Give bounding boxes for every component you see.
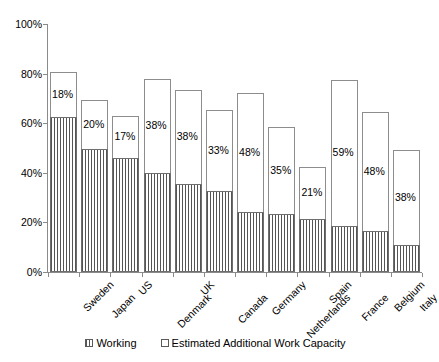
bar-group[interactable]: 35% (268, 24, 295, 272)
bar-segment-working[interactable] (268, 214, 295, 272)
x-axis-tick-mark (391, 273, 392, 277)
bar-value-label: 38% (177, 131, 198, 142)
legend-label: Estimated Additional Work Capacity (172, 337, 346, 349)
legend-swatch-working-icon (85, 339, 93, 347)
x-axis-tick-mark (142, 273, 143, 277)
legend-entry[interactable]: Working (85, 337, 136, 349)
bar-value-label: 20% (83, 119, 104, 130)
bar-group[interactable]: 38% (393, 24, 420, 272)
x-axis-category-label: Germany (269, 279, 307, 317)
legend-entry[interactable]: Estimated Additional Work Capacity (161, 337, 346, 349)
bar-value-label: 38% (395, 192, 416, 203)
y-axis-tick-label: 40% (4, 168, 42, 178)
bar-value-label: 18% (52, 89, 73, 100)
x-axis-tick-mark (204, 273, 205, 277)
x-axis-tick-mark (266, 273, 267, 277)
bar-group[interactable]: 17% (112, 24, 139, 272)
bar-value-label: 21% (301, 187, 322, 198)
bar-value-label: 59% (333, 147, 354, 158)
bar-segment-working[interactable] (362, 231, 389, 272)
y-axis-tick-mark (43, 123, 48, 124)
x-axis-category-label: Canada (236, 292, 270, 326)
bar-value-label: 33% (208, 145, 229, 156)
bar-segment-working[interactable] (81, 149, 108, 272)
y-axis-tick-mark (43, 222, 48, 223)
x-axis-tick-mark (422, 273, 423, 277)
bar-value-label: 38% (146, 120, 167, 131)
y-axis-tick-label: 100% (4, 19, 42, 29)
y-axis-tick-label: 80% (4, 69, 42, 79)
legend-swatch-capacity-icon (161, 339, 169, 347)
x-axis-tick-mark (297, 273, 298, 277)
bar-segment-working[interactable] (206, 191, 233, 272)
bar-segment-working[interactable] (175, 184, 202, 272)
bar-value-label: 48% (364, 166, 385, 177)
x-axis-tick-mark (79, 273, 80, 277)
bar-group[interactable]: 33% (206, 24, 233, 272)
x-axis-category-label: France (360, 292, 391, 323)
bar-segment-working[interactable] (237, 212, 264, 272)
y-axis-tick-mark (43, 74, 48, 75)
bar-value-label: 48% (239, 147, 260, 158)
bar-segment-working[interactable] (112, 158, 139, 272)
bar-value-label: 35% (270, 165, 291, 176)
x-axis-tick-mark (329, 273, 330, 277)
x-axis-tick-mark (48, 273, 49, 277)
bar-segment-working[interactable] (393, 245, 420, 272)
y-axis-tick-label: 60% (4, 118, 42, 128)
x-axis-tick-mark (110, 273, 111, 277)
y-axis: 100%80%60%40%20%0% (0, 0, 42, 362)
bar-group[interactable]: 18% (50, 24, 77, 272)
bar-group[interactable]: 59% (331, 24, 358, 272)
x-axis-category-label: Japan (109, 292, 137, 320)
x-axis-category-label: US (136, 279, 154, 297)
y-axis-tick-mark (43, 24, 48, 25)
bar-segment-working[interactable] (299, 219, 326, 272)
chart-legend: WorkingEstimated Additional Work Capacit… (0, 334, 431, 352)
bar-segment-working[interactable] (331, 226, 358, 272)
bar-segment-working[interactable] (144, 173, 171, 272)
y-axis-tick-mark (43, 173, 48, 174)
bar-group[interactable]: 38% (144, 24, 171, 272)
bar-group[interactable]: 20% (81, 24, 108, 272)
bar-group[interactable]: 48% (237, 24, 264, 272)
bar-group[interactable]: 38% (175, 24, 202, 272)
bar-segment-working[interactable] (50, 117, 77, 272)
legend-label: Working (96, 337, 136, 349)
plot-area: 18%20%17%38%38%33%48%35%21%59%48%38% (48, 24, 422, 272)
y-axis-tick-label: 0% (4, 267, 42, 277)
bar-value-label: 17% (114, 131, 135, 142)
x-axis-category-label: Denmark (176, 292, 214, 330)
x-axis-tick-mark (235, 273, 236, 277)
bar-group[interactable]: 21% (299, 24, 326, 272)
x-axis-category-label: Italy (418, 292, 439, 313)
x-axis-tick-mark (173, 273, 174, 277)
y-axis-tick-label: 20% (4, 217, 42, 227)
bar-group[interactable]: 48% (362, 24, 389, 272)
x-axis-tick-mark (360, 273, 361, 277)
